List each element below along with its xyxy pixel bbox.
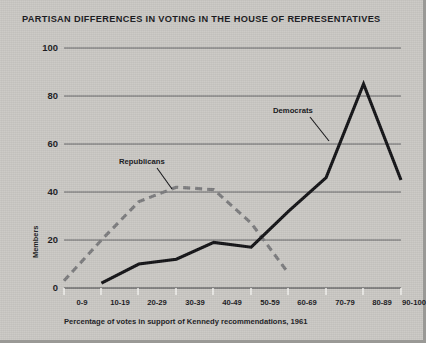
x-axis-labels: 0-9 10-19 20-29 30-39 40-49 50-59 60-69 … (76, 298, 426, 307)
y-axis-title: Members (31, 226, 40, 258)
x-tick-label-7: 70-79 (335, 298, 355, 307)
y-tick-label-80: 80 (48, 90, 58, 101)
x-tick-label-0: 0-9 (76, 298, 87, 307)
x-tick-label-6: 60-69 (297, 298, 317, 307)
x-axis-tickmarks (64, 288, 401, 295)
x-tick-label-8: 80-89 (372, 298, 392, 307)
series-label-democrats: Democrats (273, 106, 313, 115)
x-tick-label-5: 50-59 (260, 298, 280, 307)
annotation-republicans: Republicans (119, 157, 172, 189)
series-label-republicans: Republicans (119, 157, 165, 166)
y-axis-ticks: 100 80 60 40 20 0 (42, 42, 58, 293)
chart-page: PARTISAN DIFFERENCES IN VOTING IN THE HO… (0, 0, 426, 343)
leader-line-republicans (157, 168, 172, 189)
x-tick-label-4: 40-49 (222, 298, 242, 307)
x-tick-label-3: 30-39 (185, 298, 205, 307)
x-axis-caption: Percentage of votes in support of Kenned… (64, 317, 308, 326)
y-tick-label-60: 60 (48, 138, 58, 149)
y-tick-label-20: 20 (48, 234, 58, 245)
x-tick-label-1: 10-19 (110, 298, 130, 307)
gridlines (64, 48, 401, 240)
leader-line-democrats (310, 117, 329, 141)
line-chart: 100 80 60 40 20 0 Members 0-9 10-19 20-2 (0, 0, 426, 343)
y-tick-label-0: 0 (53, 282, 58, 293)
annotation-democrats: Democrats (273, 106, 329, 141)
x-tick-label-9: 90-100 (402, 298, 426, 307)
series-line-republicans (64, 187, 289, 281)
x-tick-label-2: 20-29 (147, 298, 167, 307)
series-line-democrats (101, 84, 401, 283)
y-tick-label-40: 40 (48, 186, 58, 197)
y-tick-label-100: 100 (42, 42, 58, 53)
